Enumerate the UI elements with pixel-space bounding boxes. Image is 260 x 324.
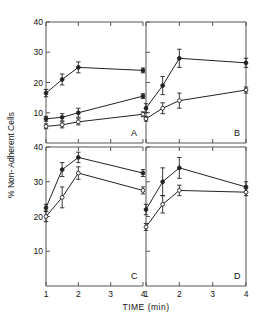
data-point-open <box>244 190 248 194</box>
y-tick-label: 40 <box>34 142 44 152</box>
data-point-filled <box>44 117 48 121</box>
data-point-open <box>161 106 165 110</box>
data-point-filled <box>144 208 148 212</box>
series-line <box>46 96 143 119</box>
data-point-filled <box>144 106 148 110</box>
series-d-lower <box>144 185 248 230</box>
y-tick-label: 20 <box>34 212 44 222</box>
data-point-filled <box>177 166 181 170</box>
data-point-filled <box>141 171 145 175</box>
x-tick-label: 1 <box>44 289 49 299</box>
y-tick-label: 30 <box>34 177 44 187</box>
data-point-open <box>177 99 181 103</box>
series-b-lower <box>144 87 248 121</box>
data-point-open <box>144 117 148 121</box>
data-point-open <box>141 189 145 193</box>
series-c-lower <box>44 167 145 222</box>
x-tick-label: 2 <box>76 289 81 299</box>
x-tick-label: 4 <box>244 289 249 299</box>
series-b-upper <box>144 49 248 113</box>
y-tick-label: 10 <box>34 246 44 256</box>
x-axis-title: TIME (min) <box>122 302 169 312</box>
series-d-upper <box>144 157 248 214</box>
series-line <box>46 173 143 216</box>
y-axis-title: % Non- Adherent Cells <box>6 112 16 198</box>
data-point-open <box>60 195 64 199</box>
panel-a <box>44 22 145 143</box>
data-point-open <box>60 123 64 127</box>
panel-d <box>144 147 248 286</box>
data-point-open <box>44 215 48 219</box>
data-point-filled <box>76 65 80 69</box>
data-point-filled <box>44 91 48 95</box>
y-tick-label: 20 <box>34 78 44 88</box>
x-tick-label: 1 <box>144 289 149 299</box>
data-point-open <box>76 171 80 175</box>
y-tick-label: 40 <box>34 17 44 27</box>
data-point-filled <box>244 61 248 65</box>
panel-b <box>144 22 248 143</box>
data-point-filled <box>141 94 145 98</box>
y-tick-label: 10 <box>34 108 44 118</box>
data-point-open <box>144 225 148 229</box>
series-a-middle <box>44 94 145 122</box>
data-point-filled <box>161 84 165 88</box>
panel-label-c: C <box>131 271 138 281</box>
series-line <box>46 157 143 207</box>
series-a-upper <box>44 62 145 97</box>
multi-panel-line-chart: ABCD102030401020304012341234TIME (min)% … <box>0 0 260 324</box>
y-tick-label: 30 <box>34 47 44 57</box>
data-point-open <box>244 88 248 92</box>
data-point-filled <box>60 168 64 172</box>
data-point-filled <box>161 180 165 184</box>
data-point-open <box>44 124 48 128</box>
data-point-filled <box>177 56 181 60</box>
data-point-filled <box>76 156 80 160</box>
x-tick-label: 3 <box>210 289 215 299</box>
x-tick-label: 2 <box>177 289 182 299</box>
data-point-filled <box>60 78 64 82</box>
panel-label-d: D <box>234 271 241 281</box>
x-tick-label: 3 <box>108 289 113 299</box>
series-line <box>146 58 246 108</box>
data-point-open <box>76 120 80 124</box>
series-a-lower <box>44 112 145 129</box>
panel-c <box>44 147 145 286</box>
data-point-filled <box>141 69 145 73</box>
data-point-filled <box>60 115 64 119</box>
panel-label-a: A <box>131 128 137 138</box>
figure-container: ABCD102030401020304012341234TIME (min)% … <box>0 0 260 324</box>
panel-label-b: B <box>234 128 240 138</box>
data-point-filled <box>76 111 80 115</box>
data-point-open <box>161 202 165 206</box>
data-point-filled <box>44 206 48 210</box>
series-c-upper <box>44 152 145 211</box>
data-point-open <box>177 189 181 193</box>
